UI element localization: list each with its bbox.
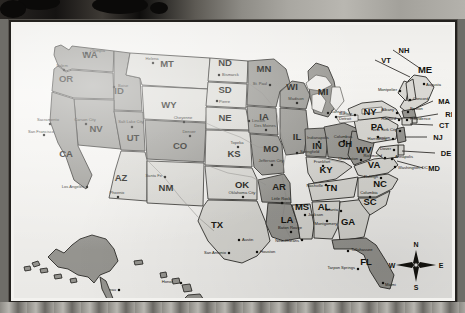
city-label[interactable]: St. Paul [253,81,267,86]
state-label-vt[interactable]: VT [381,56,391,65]
state-label-ct[interactable]: CT [439,121,449,130]
city-label[interactable]: Cheyenne [174,115,193,120]
city-label[interactable]: Madison [288,96,304,101]
city-label[interactable]: Harrisburg [367,136,387,141]
city-label[interactable]: Dover [380,146,392,151]
state-label-ky[interactable]: KY [319,164,333,175]
city-label[interactable]: Boston [410,106,423,111]
city-label[interactable]: Providence [410,116,431,121]
city-label[interactable]: Montpelier [378,87,398,92]
state-label-sd[interactable]: SD [218,84,231,95]
city-label[interactable]: Columbia [360,190,378,195]
state-label-wy[interactable]: WY [161,99,177,110]
state-label-il[interactable]: IL [293,131,302,142]
city-label[interactable]: Helena [146,56,160,61]
state-label-mo[interactable]: MO [263,143,278,154]
city-label[interactable]: Salem [56,63,68,68]
state-label-ms[interactable]: MS [295,201,309,212]
city-label[interactable]: Columbus [334,134,352,139]
state-label-de[interactable]: DE [441,149,451,158]
leader-line-de [402,151,435,153]
city-label[interactable]: Austin [242,237,254,242]
state-label-oh[interactable]: OH [338,138,352,149]
city-label[interactable]: Boise [118,83,129,88]
state-label-ga[interactable]: GA [341,216,355,227]
state-label-la[interactable]: LA [281,214,294,225]
city-dot [399,130,402,133]
state-label-ca[interactable]: CA [59,148,73,159]
city-label[interactable]: Pierre [219,99,231,104]
city-label[interactable]: Raleigh [364,174,379,179]
city-label[interactable]: Little Rock [271,196,291,201]
city-label[interactable]: Salt Lake City [118,119,144,124]
state-label-fl[interactable]: FL [360,256,372,267]
city-label[interactable]: Houston [260,249,276,254]
state-label-nc[interactable]: NC [373,178,387,189]
city-label[interactable]: Atlanta [325,207,338,212]
state-label-mi[interactable]: MI [318,86,329,97]
city-label[interactable]: Sacramento [37,117,60,122]
state-label-tn[interactable]: TN [325,182,338,193]
state-label-az[interactable]: AZ [115,172,128,183]
city-label[interactable]: Augusta [426,82,442,87]
city-dot [325,184,328,187]
city-label[interactable]: Oklahoma City [229,190,257,195]
city-label[interactable]: Hartford [381,116,397,121]
city-label[interactable]: Jackson [308,212,324,217]
state-label-nd[interactable]: ND [218,57,232,68]
city-label[interactable]: Concord [413,96,429,101]
city-label[interactable]: Santa Fe [145,173,162,178]
state-label-ma[interactable]: MA [438,97,450,106]
city-label[interactable]: Detroit [339,116,352,121]
city-label[interactable]: Albany [381,107,394,112]
city-label[interactable]: New York City [372,127,398,132]
state-label-me[interactable]: ME [418,64,432,75]
city-label[interactable]: Carson City [74,117,96,122]
city-label[interactable]: Washington, DC [398,165,428,170]
state-label-or[interactable]: OR [59,73,73,84]
state-label-ut[interactable]: UT [127,132,140,143]
state-label-ri[interactable]: RI [445,110,452,119]
state-label-ny[interactable]: NY [363,106,377,117]
city-label[interactable]: Frankfort [314,159,331,164]
city-label[interactable]: San Francisco [28,129,55,134]
city-label[interactable]: Baton Rouge [278,225,303,230]
city-label[interactable]: Montgomery [315,221,339,226]
city-label[interactable]: Denver [182,129,196,134]
us-states-map[interactable]: WAORIDMTWYNVUTCOCAAZNMNDSDNEKSOKTXMNIAMO… [14,25,452,298]
city-label[interactable]: Des Moines [254,123,276,128]
state-label-va[interactable]: VA [368,159,381,170]
state-label-mn[interactable]: MN [257,63,272,74]
city-label[interactable]: Springfield [300,149,320,154]
state-label-nj[interactable]: NJ [433,133,443,142]
state-label-nh[interactable]: NH [399,46,410,55]
state-label-ar[interactable]: AR [272,181,286,192]
state-label-md[interactable]: MD [428,164,440,173]
city-label[interactable]: Charleston [338,156,359,161]
state-label-nm[interactable]: NM [159,182,174,193]
state-label-co[interactable]: CO [173,140,187,151]
city-label[interactable]: Topeka [230,140,244,145]
state-label-tx[interactable]: TX [211,219,224,230]
city-label[interactable]: Tarpon Springs [327,265,355,270]
state-label-ne[interactable]: NE [218,112,231,123]
city-dot [85,52,88,55]
state-label-mt[interactable]: MT [160,58,174,69]
state-label-ok[interactable]: OK [235,179,249,190]
city-label[interactable]: San Antonio [204,250,227,255]
city-label[interactable]: Jefferson City [259,158,285,163]
city-label[interactable]: Bismarck [222,72,240,77]
city-label[interactable]: Phoenix [110,190,125,195]
city-label[interactable]: Richmond [364,153,383,158]
state-label-wi[interactable]: WI [286,81,298,92]
city-label[interactable]: Nashville [306,183,323,188]
city-label[interactable]: New Orleans [275,238,299,243]
city-label[interactable]: Tallahassee [351,247,373,252]
state-label-nv[interactable]: NV [89,123,103,134]
city-label[interactable]: Buffalo [339,111,352,116]
city-label[interactable]: Olympia [90,48,106,53]
city-label[interactable]: Los Angeles [62,184,84,189]
city-label[interactable]: Annapolis [395,154,413,159]
city-label[interactable]: Indianapolis [307,135,329,140]
state-label-ks[interactable]: KS [227,148,240,159]
